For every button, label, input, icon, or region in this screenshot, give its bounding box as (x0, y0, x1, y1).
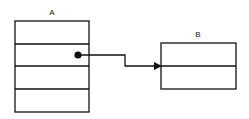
box-a-label: A (49, 8, 55, 17)
pointer-edge (74, 51, 162, 70)
box-b: B (161, 30, 236, 89)
box-a: A (15, 8, 89, 112)
box-b-label: B (195, 30, 200, 39)
pointer-diagram: A B (0, 0, 249, 119)
